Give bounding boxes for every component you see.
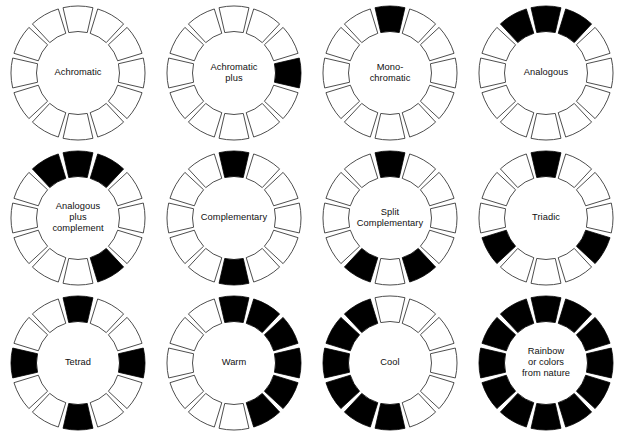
- wheel-segment-9-empty[interactable]: [167, 348, 194, 378]
- wheel-hub: [194, 323, 274, 403]
- color-wheel-warm[interactable]: Warm: [156, 290, 312, 435]
- wheel-segment-0-filled[interactable]: [531, 150, 561, 177]
- color-wheel-analogous[interactable]: Analogous: [468, 0, 624, 145]
- wheel-segment-3-filled[interactable]: [118, 348, 145, 378]
- wheel-segment-3-filled[interactable]: [586, 348, 613, 378]
- wheel-segment-6-filled[interactable]: [63, 403, 93, 430]
- color-wheel-rainbow[interactable]: Rainbowor colorsfrom nature: [468, 290, 624, 435]
- wheel-segment-6-empty[interactable]: [63, 113, 93, 140]
- wheel-segment-9-filled[interactable]: [323, 348, 350, 378]
- wheel-segment-9-empty[interactable]: [323, 203, 350, 233]
- wheel-graphic: [319, 292, 461, 434]
- wheel-segment-3-empty[interactable]: [430, 58, 457, 88]
- wheel-hub: [506, 33, 586, 113]
- wheel-graphic: [163, 292, 305, 434]
- wheel-hub: [350, 178, 430, 258]
- wheel-segment-3-empty[interactable]: [430, 348, 457, 378]
- wheel-segment-9-filled[interactable]: [11, 348, 38, 378]
- wheel-segment-6-empty[interactable]: [219, 113, 249, 140]
- wheel-segment-0-empty[interactable]: [63, 5, 93, 32]
- wheel-segment-6-empty[interactable]: [219, 403, 249, 430]
- wheel-hub: [194, 33, 274, 113]
- wheel-graphic: [475, 147, 617, 289]
- wheel-segment-9-empty[interactable]: [479, 58, 506, 88]
- wheel-segment-0-empty[interactable]: [219, 5, 249, 32]
- wheel-segment-9-empty[interactable]: [11, 58, 38, 88]
- wheel-segment-6-empty[interactable]: [531, 113, 561, 140]
- wheel-segment-3-filled[interactable]: [274, 348, 301, 378]
- color-wheel-triadic[interactable]: Triadic: [468, 145, 624, 290]
- color-wheel-analogous-plus-complement[interactable]: Analogouspluscomplement: [0, 145, 156, 290]
- wheel-graphic: [163, 2, 305, 144]
- wheel-segment-0-filled[interactable]: [531, 5, 561, 32]
- wheel-hub: [350, 33, 430, 113]
- wheel-hub: [350, 323, 430, 403]
- wheel-segment-3-empty[interactable]: [274, 203, 301, 233]
- wheel-segment-9-empty[interactable]: [167, 203, 194, 233]
- wheel-segment-9-empty[interactable]: [479, 203, 506, 233]
- wheel-segment-6-empty[interactable]: [63, 258, 93, 285]
- wheel-segment-9-empty[interactable]: [323, 58, 350, 88]
- wheel-segment-3-filled[interactable]: [274, 58, 301, 88]
- color-wheel-tetrad[interactable]: Tetrad: [0, 290, 156, 435]
- wheel-hub: [38, 323, 118, 403]
- color-wheel-achromatic[interactable]: Achromatic: [0, 0, 156, 145]
- wheel-graphic: [7, 2, 149, 144]
- wheel-segment-0-filled[interactable]: [63, 150, 93, 177]
- wheel-segment-9-empty[interactable]: [167, 58, 194, 88]
- wheel-segment-6-empty[interactable]: [375, 258, 405, 285]
- wheel-segment-6-filled[interactable]: [531, 403, 561, 430]
- wheel-segment-0-empty[interactable]: [375, 295, 405, 322]
- color-wheel-achromatic-plus[interactable]: Achromaticplus: [156, 0, 312, 145]
- wheel-graphic: [319, 2, 461, 144]
- wheel-graphic: [475, 2, 617, 144]
- wheel-segment-0-filled[interactable]: [375, 5, 405, 32]
- wheel-segment-0-filled[interactable]: [219, 295, 249, 322]
- wheel-graphic: [7, 292, 149, 434]
- wheel-segment-0-filled[interactable]: [63, 295, 93, 322]
- wheel-segment-0-filled[interactable]: [531, 295, 561, 322]
- color-wheel-grid: AchromaticAchromaticplusMono-chromaticAn…: [0, 0, 624, 436]
- wheel-hub: [506, 178, 586, 258]
- wheel-segment-6-empty[interactable]: [531, 258, 561, 285]
- wheel-segment-3-empty[interactable]: [586, 58, 613, 88]
- wheel-segment-6-filled[interactable]: [219, 258, 249, 285]
- wheel-segment-9-filled[interactable]: [479, 348, 506, 378]
- wheel-segment-3-empty[interactable]: [430, 203, 457, 233]
- wheel-graphic: [163, 147, 305, 289]
- wheel-segment-6-filled[interactable]: [375, 403, 405, 430]
- wheel-segment-0-filled[interactable]: [219, 150, 249, 177]
- color-wheel-split-complementary[interactable]: SplitComplementary: [312, 145, 468, 290]
- wheel-segment-3-empty[interactable]: [118, 203, 145, 233]
- wheel-segment-3-empty[interactable]: [118, 58, 145, 88]
- wheel-segment-9-empty[interactable]: [11, 203, 38, 233]
- wheel-graphic: [7, 147, 149, 289]
- color-wheel-monochromatic[interactable]: Mono-chromatic: [312, 0, 468, 145]
- wheel-segment-0-filled[interactable]: [375, 150, 405, 177]
- color-wheel-cool[interactable]: Cool: [312, 290, 468, 435]
- wheel-hub: [506, 323, 586, 403]
- wheel-hub: [194, 178, 274, 258]
- wheel-hub: [38, 178, 118, 258]
- wheel-graphic: [319, 147, 461, 289]
- wheel-segment-3-empty[interactable]: [586, 203, 613, 233]
- wheel-segment-6-empty[interactable]: [375, 113, 405, 140]
- wheel-graphic: [475, 292, 617, 434]
- wheel-hub: [38, 33, 118, 113]
- color-wheel-complementary[interactable]: Complementary: [156, 145, 312, 290]
